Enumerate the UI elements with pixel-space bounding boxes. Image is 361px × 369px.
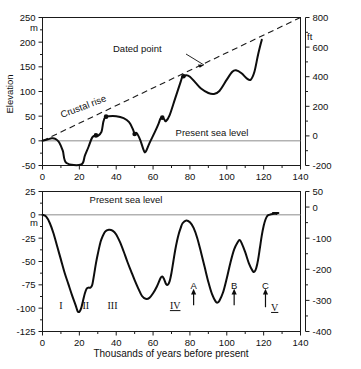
y-tick-label-left: 100	[20, 86, 36, 97]
event-marker-label: A	[190, 280, 197, 291]
crustal-rise-line	[43, 18, 301, 141]
lower-panel: 020406080100120140-125-100-75-50-25025-4…	[16, 186, 331, 359]
y-tick-label-left: 150	[20, 61, 36, 72]
y-tick-label-right: -100	[313, 233, 332, 244]
x-tick-label: 60	[148, 337, 159, 348]
y-tick-label-right: 400	[313, 71, 329, 82]
stage-label: I	[59, 300, 62, 311]
y-tick-label-right: -400	[313, 326, 332, 337]
x-tick-label: 80	[185, 171, 196, 182]
x-tick-label: 120	[256, 171, 272, 182]
dated-point-label: Dated point	[113, 43, 162, 54]
y-tick-label-left: 50	[25, 111, 36, 122]
y-tick-label-left: -100	[16, 303, 35, 314]
y-tick-label-right: -200	[313, 160, 332, 171]
upper-present-sea-level-label: Present sea level	[176, 127, 249, 138]
x-tick-label: 140	[293, 337, 309, 348]
y-tick-label-left: -50	[22, 256, 36, 267]
dated-point-leader	[186, 54, 204, 65]
y-tick-label-right: 0	[313, 130, 318, 141]
event-marker-label: C	[262, 280, 269, 291]
x-axis-title: Thousands of years before present	[93, 348, 248, 359]
stage-label: IV	[170, 300, 181, 311]
y-tick-label-right: 50	[313, 186, 324, 197]
x-tick-label: 120	[256, 337, 272, 348]
event-marker-group: ABC	[190, 280, 269, 308]
y-tick-label-left: -125	[16, 326, 35, 337]
dated-point-dot	[181, 74, 186, 79]
lower-left-unit-label: m	[30, 217, 38, 228]
dated-point-dot	[132, 132, 137, 137]
upper-panel-ticks	[39, 18, 310, 170]
event-marker-label: B	[231, 280, 237, 291]
dated-point-dot	[94, 133, 99, 138]
x-tick-label: 20	[74, 337, 85, 348]
y-tick-label-left: 0	[30, 135, 35, 146]
x-tick-label: 0	[40, 171, 45, 182]
marine-isotope-stage-labels: IIIIIIIVV	[59, 300, 279, 313]
x-tick-label: 140	[293, 171, 309, 182]
x-tick-label: 100	[219, 337, 235, 348]
y-tick-label-left: 200	[20, 37, 36, 48]
stage-label: II	[82, 300, 89, 311]
x-tick-label: 20	[74, 171, 85, 182]
upper-left-unit-label: m	[30, 22, 38, 33]
stage-label: III	[108, 300, 118, 311]
y-tick-label-right: 200	[313, 101, 329, 112]
crustal-rise-label: Crustal rise	[59, 93, 108, 120]
y-tick-label-right: 600	[313, 42, 329, 53]
dated-point-dot	[104, 114, 109, 119]
upper-right-unit-label: ft	[307, 31, 313, 42]
y-tick-label-left: -50	[22, 160, 36, 171]
x-tick-label: 40	[111, 337, 122, 348]
x-tick-label: 100	[219, 171, 235, 182]
lower-present-sea-level-label: Present sea level	[90, 194, 163, 205]
upper-panel: 020406080100120140-50050100150200250-200…	[4, 12, 332, 182]
upper-y-axis-title: Elevation	[4, 74, 15, 113]
x-tick-label: 60	[148, 171, 159, 182]
y-tick-label-right: 0	[313, 202, 318, 213]
lower-sea-level-curve	[43, 214, 277, 312]
y-tick-label-right: -300	[313, 295, 332, 306]
y-tick-label-left: 25	[25, 186, 36, 197]
x-tick-label: 80	[185, 337, 196, 348]
figure-container: 020406080100120140-50050100150200250-200…	[0, 0, 361, 369]
x-tick-label: 40	[111, 171, 122, 182]
stage-label: V	[271, 302, 279, 313]
x-tick-label: 0	[40, 337, 45, 348]
dated-point-dot	[160, 115, 165, 120]
y-tick-label-right: -200	[313, 264, 332, 275]
two-panel-sea-level-chart: 020406080100120140-50050100150200250-200…	[0, 0, 361, 369]
y-tick-label-left: -75	[22, 279, 36, 290]
y-tick-label-left: -25	[22, 233, 36, 244]
y-tick-label-right: 800	[313, 12, 329, 23]
